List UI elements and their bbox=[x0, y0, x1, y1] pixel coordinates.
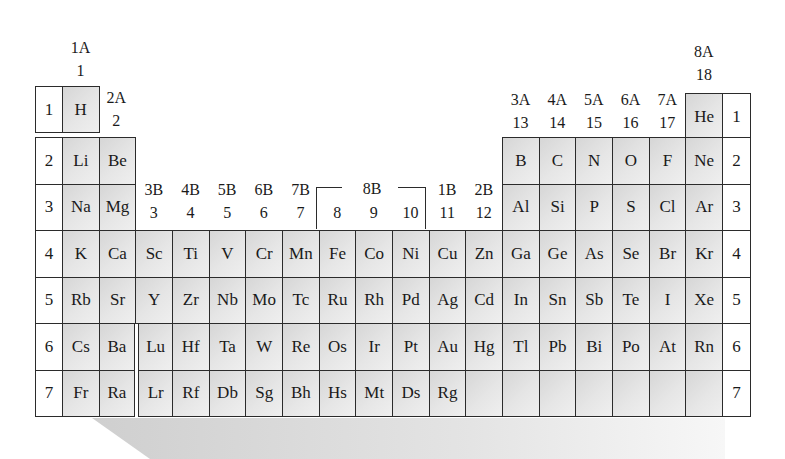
element-cell: Os bbox=[319, 323, 357, 371]
element-cell: Bh bbox=[282, 370, 320, 418]
element-cell: Kr bbox=[685, 230, 723, 278]
element-cell: Be bbox=[99, 137, 137, 185]
element-cell: Zr bbox=[172, 277, 210, 325]
element-cell: Lr bbox=[138, 370, 173, 418]
period-label-left: 1 bbox=[35, 86, 63, 133]
element-cell: Ta bbox=[209, 323, 247, 371]
group-label-g2-iupac: 2 bbox=[98, 111, 135, 130]
period-label-right: 4 bbox=[722, 230, 751, 278]
element-cell: Br bbox=[649, 230, 687, 278]
empty-element-cell bbox=[612, 370, 650, 418]
element-cell: Sg bbox=[245, 370, 283, 418]
group-label-g18-cas: 8A bbox=[685, 42, 722, 61]
element-cell: Cd bbox=[465, 277, 503, 325]
element-cell: Cl bbox=[649, 184, 687, 232]
element-cell: P bbox=[575, 184, 613, 232]
element-cell: Ar bbox=[685, 184, 723, 232]
element-cell: Cr bbox=[245, 230, 283, 278]
element-cell: Ag bbox=[429, 277, 467, 325]
element-cell: Nb bbox=[209, 277, 247, 325]
element-cell: Mn bbox=[282, 230, 320, 278]
element-cell: N bbox=[575, 137, 613, 185]
element-cell: W bbox=[245, 323, 283, 371]
group-label-g5-iupac: 5 bbox=[209, 203, 246, 222]
group-label-g11-iupac: 11 bbox=[429, 203, 466, 222]
element-cell: Fr bbox=[62, 370, 100, 418]
element-cell: Rh bbox=[355, 277, 393, 325]
empty-element-cell bbox=[539, 370, 577, 418]
element-cell: Al bbox=[502, 184, 540, 232]
element-cell: Re bbox=[282, 323, 320, 371]
element-cell: Ca bbox=[99, 230, 137, 278]
group-label-g7-cas: 7B bbox=[282, 180, 319, 199]
element-cell: Ge bbox=[539, 230, 577, 278]
element-cell: Tc bbox=[282, 277, 320, 325]
element-cell: I bbox=[649, 277, 687, 325]
element-cell: Ir bbox=[355, 323, 393, 371]
period-label-left: 2 bbox=[35, 137, 63, 185]
element-cell: Te bbox=[612, 277, 650, 325]
group-label-g12-iupac: 12 bbox=[465, 203, 502, 222]
element-cell: Db bbox=[209, 370, 247, 418]
group-label-g6-iupac: 6 bbox=[245, 203, 282, 222]
element-cell: C bbox=[539, 137, 577, 185]
group-label-g11-cas: 1B bbox=[429, 180, 466, 199]
element-cell: Hf bbox=[172, 323, 210, 371]
period-label-right: 2 bbox=[722, 137, 751, 185]
element-cell: Mt bbox=[355, 370, 393, 418]
element-cell: At bbox=[649, 323, 687, 371]
group-label-g16-iupac: 16 bbox=[612, 113, 649, 132]
group-label-g4-iupac: 4 bbox=[172, 203, 209, 222]
group-label-g12-cas: 2B bbox=[465, 180, 502, 199]
group-label-g1-cas: 1A bbox=[62, 38, 99, 57]
group-label-g16-cas: 6A bbox=[612, 90, 649, 109]
element-cell: Rf bbox=[172, 370, 210, 418]
element-cell: Hs bbox=[319, 370, 357, 418]
group-label-g3-iupac: 3 bbox=[135, 203, 172, 222]
element-cell: Co bbox=[355, 230, 393, 278]
element-cell: Ga bbox=[502, 230, 540, 278]
element-cell: O bbox=[612, 137, 650, 185]
period-label-left: 4 bbox=[35, 230, 63, 278]
period-label-left: 6 bbox=[35, 323, 63, 371]
element-cell: Ds bbox=[392, 370, 430, 418]
element-cell: Fe bbox=[319, 230, 357, 278]
element-cell: Ti bbox=[172, 230, 210, 278]
element-cell: Sc bbox=[135, 230, 173, 278]
empty-element-cell bbox=[649, 370, 687, 418]
period-label-right: 7 bbox=[722, 370, 751, 418]
element-cell: Y bbox=[135, 277, 173, 325]
element-cell: Na bbox=[62, 184, 100, 232]
group-8b-bracket-right bbox=[398, 187, 426, 229]
element-cell: K bbox=[62, 230, 100, 278]
element-cell: Mo bbox=[245, 277, 283, 325]
group-label-g14-cas: 4A bbox=[539, 90, 576, 109]
group-label-g4-cas: 4B bbox=[172, 180, 209, 199]
empty-element-cell bbox=[685, 370, 723, 418]
element-cell: Po bbox=[612, 323, 650, 371]
element-cell: Hg bbox=[465, 323, 503, 371]
element-cell: Cs bbox=[62, 323, 100, 371]
element-cell: As bbox=[575, 230, 613, 278]
element-cell: H bbox=[62, 86, 100, 133]
element-cell: Li bbox=[62, 137, 100, 185]
group-label-g7-iupac: 7 bbox=[282, 203, 319, 222]
element-cell: Sr bbox=[99, 277, 137, 325]
element-cell: Cu bbox=[429, 230, 467, 278]
period-label-left: 3 bbox=[35, 184, 63, 232]
element-cell: Au bbox=[429, 323, 467, 371]
empty-element-cell bbox=[465, 370, 503, 418]
period-label-left: 7 bbox=[35, 370, 63, 418]
group-label-g13-iupac: 13 bbox=[502, 113, 539, 132]
element-cell: B bbox=[502, 137, 540, 185]
element-cell: Ni bbox=[392, 230, 430, 278]
element-cell: Si bbox=[539, 184, 577, 232]
group-label-g15-cas: 5A bbox=[575, 90, 612, 109]
group-label-g17-cas: 7A bbox=[649, 90, 686, 109]
group-label-g3-cas: 3B bbox=[135, 180, 172, 199]
group-label-g13-cas: 3A bbox=[502, 90, 539, 109]
element-cell: Pb bbox=[539, 323, 577, 371]
element-cell: Rb bbox=[62, 277, 100, 325]
element-cell: Bi bbox=[575, 323, 613, 371]
element-cell: Sn bbox=[539, 277, 577, 325]
